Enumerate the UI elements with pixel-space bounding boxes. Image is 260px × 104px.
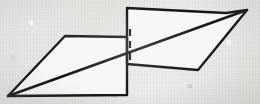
left-parallelogram-fill — [8, 36, 127, 96]
geometric-drawing — [0, 0, 260, 104]
figure-canvas: Hand-drawn geometric figure — [0, 0, 260, 104]
